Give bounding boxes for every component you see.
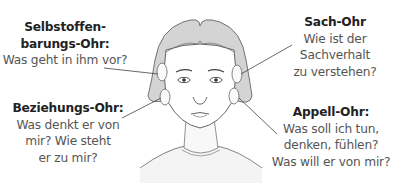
label-question: er zu mir? bbox=[8, 150, 128, 167]
ear-bottom-right bbox=[229, 88, 239, 104]
label-question: Was soll ich tun, bbox=[268, 121, 394, 138]
ear-top-left bbox=[157, 63, 167, 81]
label-question: Was geht in ihm vor? bbox=[2, 52, 128, 69]
label-beziehungs-ohr: Beziehungs-Ohr: Was denkt er von mir? Wi… bbox=[8, 100, 128, 166]
face bbox=[164, 44, 235, 128]
label-title: barungs-Ohr: bbox=[2, 36, 128, 53]
label-title: Selbstoffen- bbox=[2, 19, 128, 36]
label-selbstoffenbarungs-ohr: Selbstoffen- barungs-Ohr: Was geht in ih… bbox=[2, 19, 128, 69]
label-title: Appell-Ohr: bbox=[268, 104, 394, 121]
label-title: Beziehungs-Ohr: bbox=[8, 100, 128, 117]
label-question: Was denkt er von bbox=[8, 117, 128, 134]
label-question: Was will er von mir? bbox=[268, 154, 394, 171]
label-question: Sachverhalt bbox=[280, 47, 390, 64]
ear-bottom-left bbox=[160, 89, 170, 105]
label-question: zu verstehen? bbox=[280, 64, 390, 81]
ear-top-right bbox=[232, 65, 242, 83]
label-title: Sach-Ohr bbox=[280, 14, 390, 31]
label-question: denken, fühlen? bbox=[268, 137, 394, 154]
label-question: Wie ist der bbox=[280, 31, 390, 48]
label-appell-ohr: Appell-Ohr: Was soll ich tun, denken, fü… bbox=[268, 104, 394, 170]
label-sach-ohr: Sach-Ohr Wie ist der Sachverhalt zu vers… bbox=[280, 14, 390, 80]
label-question: mir? Wie steht bbox=[8, 133, 128, 150]
leader-line-selbstoffenbarung bbox=[104, 68, 158, 74]
